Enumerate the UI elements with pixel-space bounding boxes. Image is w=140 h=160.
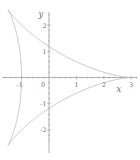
origin-label: 0 [41,81,45,88]
x-tick-label: 3 [129,81,133,88]
y-tick-label: -2 [40,126,46,133]
y-tick-label: 1 [42,48,46,55]
y-axis-label: y [38,9,44,19]
x-tick-label: 2 [102,81,106,88]
y-tick-label: 2 [42,22,46,29]
deltoid-plot-figure: -1123-2-112 y x 0 [0,0,140,160]
x-axis-label: x [117,84,122,94]
y-tick-label: -1 [40,100,46,107]
x-tick-label: -1 [17,81,23,88]
plot-svg: -1123-2-112 y x 0 [0,0,140,160]
x-tick-label: 1 [74,81,78,88]
